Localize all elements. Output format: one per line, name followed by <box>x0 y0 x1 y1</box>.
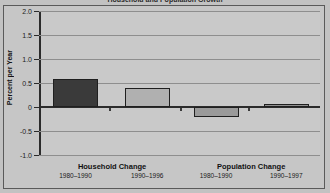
y-axis-tick-label: 0.5 <box>22 80 32 87</box>
gridline <box>39 155 320 156</box>
gridline <box>39 59 320 60</box>
bar <box>125 88 170 107</box>
y-axis-title: Percent per Year <box>6 50 15 105</box>
y-axis-tick <box>34 11 39 12</box>
gridline <box>39 35 320 36</box>
y-axis-tick <box>34 35 39 36</box>
y-axis-tick-label: 2.0 <box>22 8 32 15</box>
cropped-chart-title-text: Household and Population Growth <box>0 0 330 3</box>
x-axis-group-label: Household Change <box>78 162 146 171</box>
y-axis-tick-label: 0 <box>28 104 32 111</box>
bar <box>53 79 98 107</box>
plot-inner: 2.01.51.00.50-0.5-1.0 <box>39 11 320 155</box>
x-axis-period-label: 1990–1996 <box>131 172 164 179</box>
y-axis-tick-label: 1.0 <box>22 56 32 63</box>
chart-figure: Household and Population Growth Percent … <box>0 0 330 193</box>
y-axis-tick <box>34 83 39 84</box>
x-axis-period-label: 1980–1990 <box>200 172 233 179</box>
gridline <box>39 11 320 12</box>
bar <box>264 104 309 107</box>
x-axis-period-label: 1990–1997 <box>270 172 303 179</box>
x-axis-period-label: 1980–1990 <box>59 172 92 179</box>
y-axis-tick <box>34 131 39 132</box>
x-axis-minor-tick <box>109 108 111 111</box>
x-axis-minor-tick <box>180 108 182 111</box>
cropped-chart-title: Household and Population Growth <box>0 0 330 4</box>
gridline <box>39 131 320 132</box>
y-axis-tick-label: 1.5 <box>22 32 32 39</box>
x-axis-group-label: Population Change <box>217 162 285 171</box>
x-axis-minor-tick <box>248 108 250 111</box>
y-axis-tick-label: -1.0 <box>20 152 32 159</box>
y-axis-tick-label: -0.5 <box>20 128 32 135</box>
plot-area: 2.01.51.00.50-0.5-1.0 <box>39 11 320 155</box>
bar <box>194 107 239 117</box>
y-axis-tick <box>34 59 39 60</box>
y-axis-tick <box>34 155 39 156</box>
